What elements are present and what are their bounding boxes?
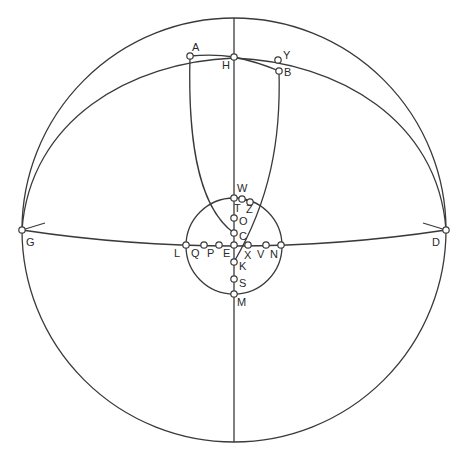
label-t: T	[234, 202, 241, 214]
label-k: K	[239, 260, 247, 272]
point-g	[19, 227, 25, 233]
point-p	[216, 242, 222, 248]
point-a	[187, 53, 193, 59]
point-l	[183, 242, 189, 248]
label-s: S	[239, 277, 246, 289]
label-q: Q	[191, 247, 200, 259]
label-a: A	[192, 41, 200, 53]
label-b: B	[284, 66, 291, 78]
label-v: V	[257, 248, 265, 260]
label-y: Y	[283, 49, 291, 61]
point-x	[245, 242, 251, 248]
label-z: Z	[246, 203, 253, 215]
point-c	[231, 230, 237, 236]
label-m: M	[237, 296, 246, 308]
point-k	[231, 259, 237, 265]
point-w	[231, 195, 237, 201]
geometric-diagram: AHYBGDWTZOCLQPEXVNKSM	[0, 0, 463, 455]
point-s	[231, 276, 237, 282]
label-w: W	[237, 182, 248, 194]
label-p: P	[207, 247, 214, 259]
label-n: N	[270, 248, 278, 260]
label-h: H	[222, 59, 230, 71]
label-o: O	[239, 215, 248, 227]
point-o	[231, 215, 237, 221]
point-h	[231, 54, 237, 60]
point-y	[275, 57, 281, 63]
label-group: AHYBGDWTZOCLQPEXVNKSM	[26, 41, 440, 308]
label-d: D	[432, 236, 440, 248]
label-l: L	[174, 247, 180, 259]
label-g: G	[26, 236, 35, 248]
point-e	[231, 242, 237, 248]
curve-AC	[190, 56, 234, 233]
point-b	[276, 68, 282, 74]
point-n	[278, 242, 284, 248]
label-c: C	[239, 230, 247, 242]
label-e: E	[223, 247, 230, 259]
point-d	[443, 227, 449, 233]
